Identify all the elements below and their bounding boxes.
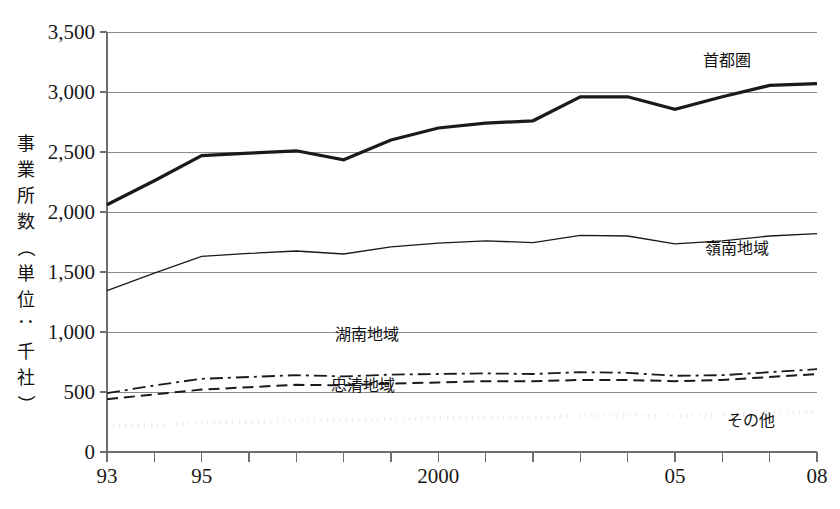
x-tick-label: 93 <box>97 464 118 488</box>
y-axis <box>100 32 107 452</box>
y-tick-label: 500 <box>64 380 96 404</box>
y-axis-title: 事業所数（単位：千社） <box>16 133 37 413</box>
chart-container: 3,5003,0002,5002,0001,5001,0005000 93952… <box>0 0 840 509</box>
y-axis-title-char: 位 <box>17 289 35 310</box>
series-label-1: 嶺南地域 <box>705 239 769 258</box>
series-label-0: 首都圏 <box>703 51 751 70</box>
x-tick-label: 08 <box>807 464 828 488</box>
y-tick-label: 1,500 <box>48 260 95 284</box>
y-axis-tick-labels: 3,5003,0002,5002,0001,5001,0005000 <box>48 20 95 464</box>
y-tick-label: 0 <box>85 440 96 464</box>
y-axis-title-char: ： <box>16 317 37 335</box>
y-axis-title-char: 業 <box>17 159 35 180</box>
y-axis-title-char: 千 <box>17 341 35 362</box>
y-axis-title-char: 数 <box>17 211 35 232</box>
x-axis <box>107 445 817 462</box>
line-chart: 3,5003,0002,5002,0001,5001,0005000 93952… <box>0 0 840 509</box>
series-label-2: 湖南地域 <box>335 325 399 344</box>
series-line-0 <box>107 84 817 205</box>
y-axis-title-char: 所 <box>17 185 35 206</box>
y-axis-title-char: ） <box>16 395 37 413</box>
y-axis-title-char: （ <box>16 239 37 257</box>
y-tick-label: 3,000 <box>48 80 95 104</box>
series-label-4: その他 <box>727 411 775 430</box>
x-axis-tick-labels: 939520000508 <box>97 464 828 488</box>
x-tick-label: 05 <box>665 464 686 488</box>
series-line-4 <box>107 412 817 427</box>
gridlines <box>107 32 817 392</box>
y-axis-title-char: 単 <box>17 263 35 284</box>
series-label-3: 忠清地域 <box>331 376 395 395</box>
y-tick-label: 2,000 <box>48 200 95 224</box>
y-tick-label: 1,000 <box>48 320 95 344</box>
y-tick-label: 2,500 <box>48 140 95 164</box>
y-axis-title-char: 社 <box>17 367 35 388</box>
y-axis-title-char: 事 <box>17 133 35 154</box>
y-tick-label: 3,500 <box>48 20 95 44</box>
x-tick-label: 95 <box>191 464 212 488</box>
x-tick-label: 2000 <box>417 464 459 488</box>
